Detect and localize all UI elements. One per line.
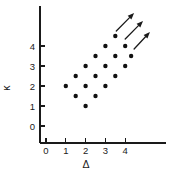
axes-group (40, 6, 166, 143)
data-point (103, 84, 107, 88)
y-tick-label: 3 (30, 61, 35, 72)
data-point (93, 74, 97, 78)
x-axis-ticks: 01234 (43, 138, 127, 156)
x-tick-label: 3 (103, 145, 108, 156)
y-axis-title: κ (0, 85, 12, 91)
trend-arrow-lower (134, 37, 145, 49)
y-tick-label: 1 (30, 101, 35, 112)
data-point (103, 64, 107, 68)
data-point (74, 94, 78, 98)
x-tick-label: 0 (43, 145, 48, 156)
scatter-plot-figure: 01234 01234 Δ κ (0, 0, 171, 171)
x-tick-label: 2 (83, 145, 88, 156)
data-point (103, 44, 107, 48)
data-point (123, 44, 127, 48)
y-tick-label: 2 (30, 81, 35, 92)
plot-canvas: 01234 01234 Δ κ (0, 0, 171, 171)
data-point (129, 54, 133, 58)
y-tick-label: 0 (30, 121, 35, 132)
trend-arrow-middle (125, 26, 138, 39)
x-axis-title: Δ (82, 158, 89, 170)
trend-arrow-upper (116, 18, 129, 31)
data-point (113, 54, 117, 58)
data-point (93, 54, 97, 58)
data-point (83, 84, 87, 88)
data-point (113, 74, 117, 78)
x-tick-label: 1 (63, 145, 68, 156)
data-points-group (64, 34, 134, 108)
x-tick-label: 4 (123, 145, 128, 156)
data-point (64, 84, 68, 88)
data-point (123, 64, 127, 68)
data-point (93, 94, 97, 98)
data-point (83, 64, 87, 68)
y-axis-ticks: 01234 (30, 41, 45, 132)
trend-arrows-group (116, 13, 150, 49)
y-tick-label: 4 (30, 41, 35, 52)
data-point (113, 34, 117, 38)
data-point (83, 104, 87, 108)
data-point (74, 74, 78, 78)
